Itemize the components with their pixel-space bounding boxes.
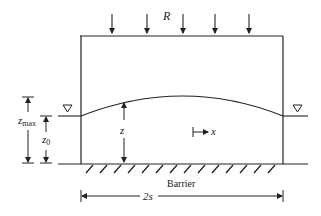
aquifer-box (80, 36, 283, 164)
barrier-hatching (86, 165, 275, 173)
aquifer-diagram: R Barrier zmax (0, 0, 321, 216)
water-table-curve (81, 96, 283, 116)
z0-label: z0 (41, 133, 50, 147)
width-dimension (81, 190, 283, 202)
recharge-label: R (162, 9, 171, 23)
x-label: x (210, 125, 216, 137)
z-label: z (119, 124, 125, 136)
x-axis-indicator (193, 127, 208, 137)
water-level-right-icon (293, 105, 302, 112)
water-level-left-icon (63, 105, 72, 112)
recharge-arrows (112, 14, 249, 33)
barrier-label: Barrier (167, 178, 196, 189)
zmax-dimension (22, 97, 34, 163)
width-label: 2s (143, 190, 153, 202)
zmax-label: zmax (17, 114, 36, 128)
